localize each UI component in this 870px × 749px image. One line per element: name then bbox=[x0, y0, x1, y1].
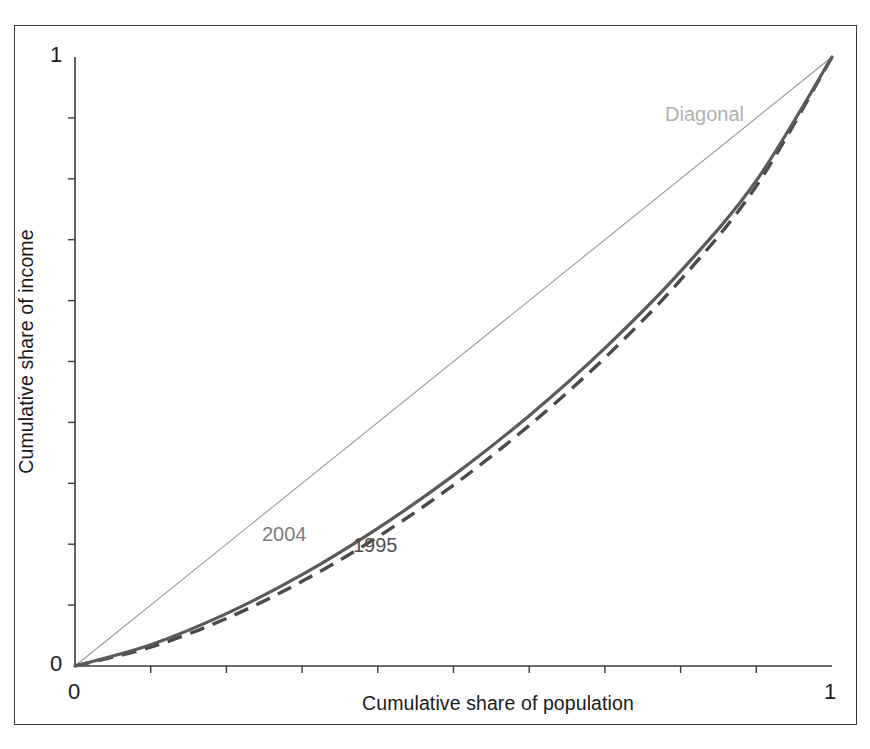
annotation-diagonal: Diagonal bbox=[665, 104, 744, 124]
series-line-diagonal bbox=[75, 57, 832, 666]
y-tick-label-max: 1 bbox=[50, 44, 62, 66]
annotation-series-1995: 1995 bbox=[353, 535, 398, 555]
y-axis-label: Cumulative share of income bbox=[15, 222, 38, 482]
y-axis-label-text: Cumulative share of income bbox=[15, 229, 37, 473]
x-axis-label: Cumulative share of population bbox=[343, 692, 653, 715]
y-tick-label-min: 0 bbox=[50, 653, 62, 675]
lorenz-curve-figure: Cumulative share of income Cumulative sh… bbox=[0, 0, 870, 749]
y-axis-ticks bbox=[68, 118, 75, 605]
x-tick-label-max: 1 bbox=[824, 681, 836, 703]
x-axis-label-text: Cumulative share of population bbox=[362, 692, 634, 714]
x-tick-label-min: 0 bbox=[68, 681, 80, 703]
x-axis-ticks bbox=[151, 666, 757, 673]
annotation-series-2004: 2004 bbox=[262, 524, 307, 544]
